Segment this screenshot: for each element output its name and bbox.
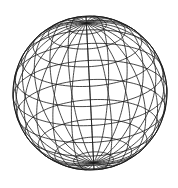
longitude-line — [86, 16, 94, 163]
longitude-line — [34, 20, 93, 162]
longitude-line — [86, 23, 145, 165]
wireframe-sphere-icon — [0, 0, 178, 188]
sphere-figure — [0, 0, 178, 188]
